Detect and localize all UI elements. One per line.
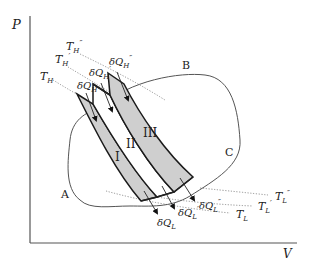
- label-dql-dprime: δQL″: [199, 197, 221, 214]
- label-tl: TL: [236, 208, 248, 223]
- point-label-b: B: [182, 59, 190, 72]
- label-tl-dprime: TL″: [275, 188, 290, 205]
- heat-out-labels: δQL δQL′ δQL″: [157, 197, 221, 231]
- pv-diagram: P V I II III: [0, 0, 313, 272]
- label-th: TH: [40, 70, 54, 85]
- label-dql: δQL: [157, 217, 176, 231]
- label-tl-prime: TL′: [258, 198, 272, 215]
- point-label-c: C: [225, 146, 233, 159]
- hot-isotherm-labels: TH TH′ TH″: [40, 38, 82, 85]
- strip-label-iii: III: [143, 126, 157, 140]
- isotherm-th: [53, 80, 80, 96]
- isotherm-tl-dprime: [200, 188, 268, 195]
- label-dqh: δQH: [77, 80, 98, 94]
- label-dql-prime: δQL′: [178, 204, 199, 221]
- x-axis-label: V: [283, 247, 293, 261]
- strip-label-i: I: [115, 150, 120, 164]
- label-th-prime: TH′: [55, 51, 70, 68]
- label-dqh-prime: δQH′: [89, 64, 111, 81]
- y-axis-label: P: [11, 17, 21, 32]
- label-dqh-dprime: δQH″: [109, 53, 132, 70]
- label-th-dprime: TH″: [66, 38, 82, 55]
- point-label-a: A: [60, 188, 70, 201]
- strip-label-ii: II: [126, 137, 136, 151]
- cold-isotherm-labels: TL TL′ TL″: [236, 188, 290, 223]
